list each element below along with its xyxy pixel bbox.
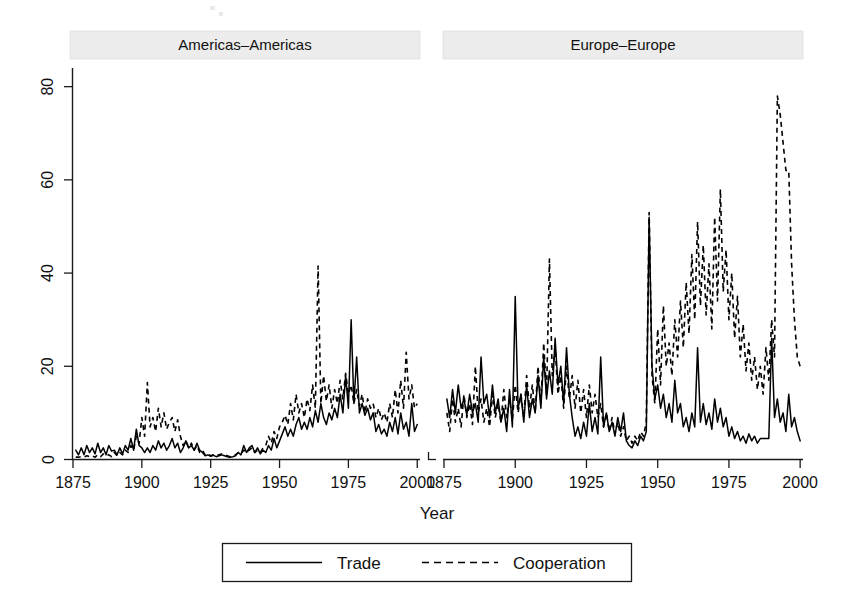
panel-title-europe: Europe–Europe xyxy=(570,36,675,53)
series-line-trade-americas xyxy=(76,320,418,457)
x-tick-label: 1975 xyxy=(711,474,747,491)
trade-cooperation-chart-figure: Americas–Americas Europe–Europe 02040608… xyxy=(0,0,855,616)
x-axis-title: Year xyxy=(420,504,455,523)
x-tick-label: 1975 xyxy=(331,474,367,491)
panel-europe: 187519001925195019752000 xyxy=(426,96,818,491)
y-tick-label: 60 xyxy=(40,171,57,189)
x-tick-label: 1875 xyxy=(55,474,91,491)
y-tick-label: 20 xyxy=(40,357,57,375)
scan-artifact xyxy=(210,6,223,16)
panel-strip-europe: Europe–Europe xyxy=(443,31,803,59)
y-axis: 020406080 xyxy=(40,68,73,464)
x-tick-label: 1875 xyxy=(426,474,462,491)
legend: Trade Cooperation xyxy=(223,544,632,582)
x-tick-labels-americas: 187519001925195019752000 xyxy=(55,474,435,491)
y-tick-label: 80 xyxy=(40,78,57,96)
panel-title-americas: Americas–Americas xyxy=(178,36,311,53)
series-line-trade-europe xyxy=(447,217,800,448)
chart-svg: Americas–Americas Europe–Europe 02040608… xyxy=(0,0,855,616)
legend-label-trade: Trade xyxy=(337,554,381,573)
y-tick-group: 020406080 xyxy=(40,78,73,464)
x-tick-labels-europe: 187519001925195019752000 xyxy=(426,474,818,491)
x-tick-label: 1900 xyxy=(124,474,160,491)
x-tick-label: 1900 xyxy=(497,474,533,491)
series-line-cooperation-europe xyxy=(447,96,800,443)
x-tick-label: 2000 xyxy=(782,474,818,491)
panel-americas: 187519001925195019752000 xyxy=(55,266,435,491)
x-tick-group-europe xyxy=(444,460,800,469)
x-tick-label: 1925 xyxy=(193,474,229,491)
y-tick-label: 0 xyxy=(40,455,57,464)
panel-strip-americas: Americas–Americas xyxy=(70,31,420,59)
x-tick-label: 1925 xyxy=(569,474,605,491)
x-tick-group-americas xyxy=(73,460,417,469)
y-tick-label: 40 xyxy=(40,264,57,282)
x-tick-label: 1950 xyxy=(640,474,676,491)
x-tick-label: 1950 xyxy=(262,474,298,491)
series-line-cooperation-americas xyxy=(76,266,418,457)
legend-label-cooperation: Cooperation xyxy=(513,554,606,573)
